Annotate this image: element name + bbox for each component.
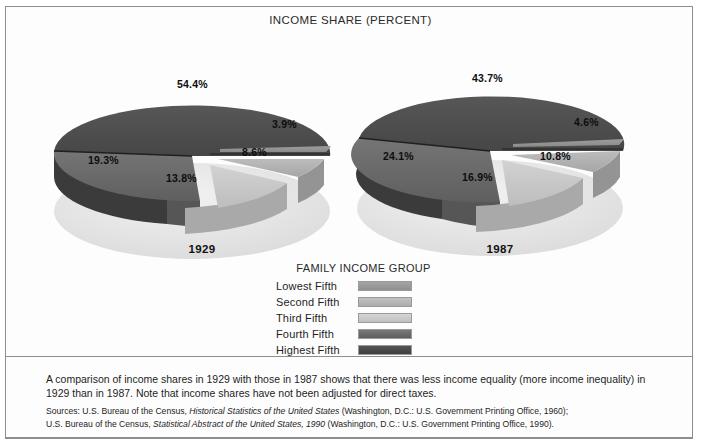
legend-label: Second Fifth [258, 296, 358, 308]
slice-value-lowest-1987: 4.6% [574, 116, 599, 128]
separator-line-bottom [6, 437, 692, 438]
slice-value-lowest-1929: 3.9% [272, 118, 297, 130]
source-2-suffix: (Washington, D.C.: U.S. Government Print… [325, 419, 554, 429]
legend-item-highest-fifth: Highest Fifth [258, 343, 463, 357]
slice-value-fourth-1929: 19.3% [88, 154, 119, 166]
pie-chart-1987: 43.7% 24.1% 16.9% 10.8% 4.6% [350, 46, 650, 261]
pie-1929-year-label: 1929 [52, 243, 352, 255]
slice-value-highest-1987: 43.7% [472, 72, 503, 84]
legend-item-fourth-fifth: Fourth Fifth [258, 327, 463, 341]
legend-swatch-highest-fifth [358, 345, 412, 355]
separator-line-top [6, 356, 692, 357]
legend-item-second-fifth: Second Fifth [258, 295, 463, 309]
slice-value-highest-1929: 54.4% [177, 78, 208, 90]
legend-item-lowest-fifth: Lowest Fifth [258, 279, 463, 293]
source-1-title: Historical Statistics of the United Stat… [189, 406, 339, 416]
slice-value-third-1987: 16.9% [462, 171, 493, 183]
legend-item-third-fifth: Third Fifth [258, 311, 463, 325]
legend-label: Third Fifth [258, 312, 358, 324]
legend-swatch-lowest-fifth [358, 281, 412, 291]
legend-title: FAMILY INCOME GROUP [264, 262, 463, 274]
legend-label: Fourth Fifth [258, 328, 358, 340]
figure-sources: Sources: U.S. Bureau of the Census, Hist… [46, 405, 676, 430]
slice-value-fourth-1987: 24.1% [383, 150, 414, 162]
source-1-suffix: (Washington, D.C.: U.S. Government Print… [339, 406, 568, 416]
legend-label: Highest Fifth [258, 344, 358, 356]
chart-title: INCOME SHARE (PERCENT) [0, 14, 701, 26]
source-1-prefix: Sources: U.S. Bureau of the Census, [46, 406, 189, 416]
source-2-prefix: U.S. Bureau of the Census, [46, 419, 153, 429]
pie-1987-year-label: 1987 [350, 243, 650, 255]
legend: FAMILY INCOME GROUP Lowest Fifth Second … [258, 262, 463, 359]
source-line-2: U.S. Bureau of the Census, Statistical A… [46, 418, 676, 431]
source-line-1: Sources: U.S. Bureau of the Census, Hist… [46, 405, 676, 418]
pie-chart-1929: 54.4% 19.3% 13.8% 8.6% 3.9% [52, 46, 352, 261]
legend-label: Lowest Fifth [258, 280, 358, 292]
slice-value-third-1929: 13.8% [166, 172, 197, 184]
legend-swatch-fourth-fifth [358, 329, 412, 339]
legend-swatch-third-fifth [358, 313, 412, 323]
source-2-title: Statistical Abstract of the United State… [153, 419, 325, 429]
figure-note: A comparison of income shares in 1929 wi… [46, 372, 666, 400]
slice-value-second-1929: 8.6% [242, 146, 267, 158]
slice-value-second-1987: 10.8% [540, 150, 571, 162]
legend-swatch-second-fifth [358, 297, 412, 307]
